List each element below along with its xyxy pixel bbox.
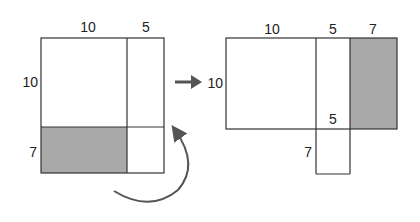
right-label-top-left: 10 [264,21,280,37]
left-label-top-right: 5 [142,19,150,35]
right-label-inner-bottom: 5 [329,111,337,127]
right-label-top-middle: 5 [329,21,337,37]
diagram-canvas: 10 5 10 7 10 5 7 10 5 7 [0,0,420,222]
right-shaded-region [350,38,397,129]
left-label-top-left: 10 [80,19,96,35]
left-figure: 10 5 10 7 [22,19,164,173]
right-label-side: 10 [207,75,223,91]
right-arrow-icon [175,75,202,89]
left-label-side-bottom: 7 [29,144,37,160]
right-label-top-right: 7 [369,21,377,37]
left-shaded-region [41,127,127,173]
right-figure: 10 5 7 10 5 7 [207,21,397,174]
left-label-side-top: 10 [22,74,38,90]
right-label-bottom-side: 7 [304,144,312,160]
